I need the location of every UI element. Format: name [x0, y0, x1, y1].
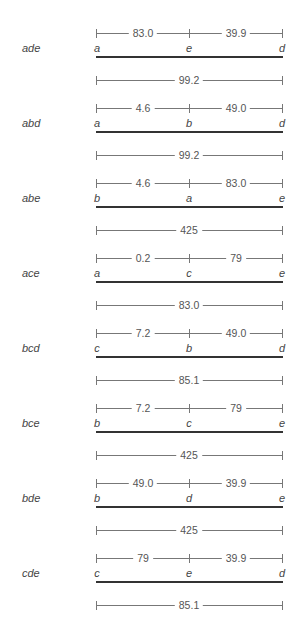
- right-segment-value: 49.0: [222, 327, 250, 340]
- right-segment-value: 39.9: [222, 477, 250, 490]
- point-middle: b: [186, 342, 192, 354]
- baseline: [96, 506, 283, 508]
- point-left: c: [94, 567, 100, 579]
- total-dimension: 425: [96, 451, 283, 460]
- total-value: 99.2: [175, 149, 203, 162]
- baseline: [96, 131, 283, 133]
- triplet-group: bcd 7.2 49.0 c b d 85.1: [0, 320, 301, 395]
- right-segment-value: 39.9: [222, 27, 250, 40]
- total-dimension: 425: [96, 226, 283, 235]
- point-right: d: [279, 117, 285, 129]
- triplet-group: abe 4.6 83.0 b a e 425: [0, 170, 301, 245]
- triplet-group: ace 0.2 79 a c e 83.0: [0, 245, 301, 320]
- triplet-group: cde 79 39.9 c e d 85.1: [0, 545, 301, 620]
- triplet-label: abd: [22, 117, 40, 129]
- left-segment-value: 49.0: [129, 477, 157, 490]
- left-segment-dimension: 83.0: [96, 29, 190, 38]
- total-dimension: 85.1: [96, 376, 283, 385]
- total-value: 83.0: [175, 299, 203, 312]
- left-segment-value: 83.0: [129, 27, 157, 40]
- triplet-label: abe: [22, 192, 40, 204]
- point-middle: a: [186, 192, 192, 204]
- triplet-label: ade: [22, 42, 40, 54]
- triplet-label: bce: [22, 417, 40, 429]
- point-middle: e: [186, 42, 192, 54]
- point-left: a: [94, 42, 100, 54]
- point-left: a: [94, 267, 100, 279]
- right-segment-dimension: 79: [189, 404, 283, 413]
- point-left: b: [94, 492, 100, 504]
- baseline: [96, 56, 283, 58]
- point-middle: b: [186, 117, 192, 129]
- total-value: 425: [176, 224, 202, 237]
- baseline: [96, 431, 283, 433]
- left-segment-value: 4.6: [132, 177, 155, 190]
- triplet-group: bce 7.2 79 b c e 425: [0, 395, 301, 470]
- right-segment-dimension: 39.9: [189, 554, 283, 563]
- total-dimension: 99.2: [96, 76, 283, 85]
- right-segment-dimension: 39.9: [189, 479, 283, 488]
- point-right: e: [279, 492, 285, 504]
- right-segment-value: 79: [226, 402, 246, 415]
- total-value: 85.1: [175, 374, 203, 387]
- left-segment-dimension: 7.2: [96, 329, 190, 338]
- point-right: e: [279, 417, 285, 429]
- right-segment-value: 79: [226, 252, 246, 265]
- left-segment-value: 7.2: [132, 402, 155, 415]
- point-middle: e: [186, 567, 192, 579]
- right-segment-dimension: 49.0: [189, 104, 283, 113]
- triplet-label: cde: [22, 567, 40, 579]
- point-middle: c: [186, 267, 192, 279]
- point-right: e: [279, 192, 285, 204]
- left-segment-value: 7.2: [132, 327, 155, 340]
- left-segment-value: 79: [133, 552, 153, 565]
- total-dimension: 99.2: [96, 151, 283, 160]
- point-right: e: [279, 267, 285, 279]
- left-segment-dimension: 4.6: [96, 179, 190, 188]
- triplet-group: abd 4.6 49.0 a b d 99.2: [0, 95, 301, 170]
- left-segment-dimension: 49.0: [96, 479, 190, 488]
- right-segment-dimension: 39.9: [189, 29, 283, 38]
- total-value: 99.2: [175, 74, 203, 87]
- total-value: 425: [176, 524, 202, 537]
- left-segment-value: 4.6: [132, 102, 155, 115]
- left-segment-dimension: 4.6: [96, 104, 190, 113]
- total-value: 85.1: [175, 599, 203, 612]
- triplet-label: bde: [22, 492, 40, 504]
- left-segment-dimension: 0.2: [96, 254, 190, 263]
- total-dimension: 83.0: [96, 301, 283, 310]
- baseline: [96, 581, 283, 583]
- triplet-group: ade 83.0 39.9 a e d 99.2: [0, 20, 301, 95]
- point-middle: c: [186, 417, 192, 429]
- point-left: c: [94, 342, 100, 354]
- point-right: d: [279, 342, 285, 354]
- right-segment-dimension: 79: [189, 254, 283, 263]
- point-right: d: [279, 42, 285, 54]
- triplet-label: ace: [22, 267, 40, 279]
- right-segment-value: 83.0: [222, 177, 250, 190]
- triplet-group: bde 49.0 39.9 b d e 425: [0, 470, 301, 545]
- right-segment-value: 49.0: [222, 102, 250, 115]
- baseline: [96, 206, 283, 208]
- triplet-label: bcd: [22, 342, 40, 354]
- point-right: d: [279, 567, 285, 579]
- total-dimension: 85.1: [96, 601, 283, 610]
- point-left: b: [94, 417, 100, 429]
- point-middle: d: [186, 492, 192, 504]
- baseline: [96, 281, 283, 283]
- point-left: b: [94, 192, 100, 204]
- right-segment-value: 39.9: [222, 552, 250, 565]
- point-left: a: [94, 117, 100, 129]
- right-segment-dimension: 83.0: [189, 179, 283, 188]
- left-segment-dimension: 79: [96, 554, 190, 563]
- total-dimension: 425: [96, 526, 283, 535]
- left-segment-value: 0.2: [132, 252, 155, 265]
- baseline: [96, 356, 283, 358]
- left-segment-dimension: 7.2: [96, 404, 190, 413]
- right-segment-dimension: 49.0: [189, 329, 283, 338]
- total-value: 425: [176, 449, 202, 462]
